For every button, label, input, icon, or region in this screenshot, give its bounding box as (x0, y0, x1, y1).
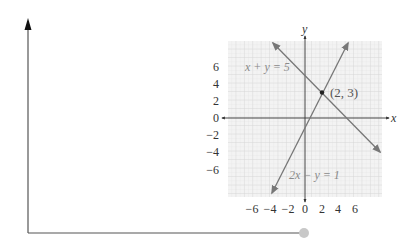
svg-text:0: 0 (302, 202, 308, 216)
svg-text:2: 2 (213, 94, 219, 108)
svg-text:6: 6 (352, 202, 358, 216)
svg-text:−2: −2 (282, 202, 295, 216)
svg-text:−2: −2 (206, 128, 219, 142)
svg-text:−4: −4 (206, 145, 219, 159)
frame-end-marker[interactable] (299, 228, 309, 238)
intersection-label: (2, 3) (330, 85, 358, 100)
y-axis-label: y (301, 22, 308, 36)
equation-label-1: x + y = 5 (244, 60, 290, 74)
svg-text:4: 4 (335, 202, 341, 216)
svg-text:6: 6 (213, 60, 219, 74)
y-tick-labels: 6 4 2 0 −2 −4 −6 (206, 60, 219, 177)
figure-canvas: x y 6 4 2 0 −2 −4 −6 −6 −4 −2 0 2 4 6 x … (0, 0, 417, 241)
x-tick-labels: −6 −4 −2 0 2 4 6 (246, 202, 358, 216)
svg-text:−6: −6 (246, 202, 259, 216)
svg-text:−4: −4 (264, 202, 277, 216)
svg-text:2: 2 (319, 202, 325, 216)
svg-text:−6: −6 (206, 163, 219, 177)
equation-label-2: 2x − y = 1 (289, 168, 340, 182)
x-axis-label: x (390, 111, 397, 125)
svg-text:4: 4 (213, 77, 219, 91)
svg-text:0: 0 (213, 111, 219, 125)
frame-up-arrow-icon (25, 18, 32, 30)
